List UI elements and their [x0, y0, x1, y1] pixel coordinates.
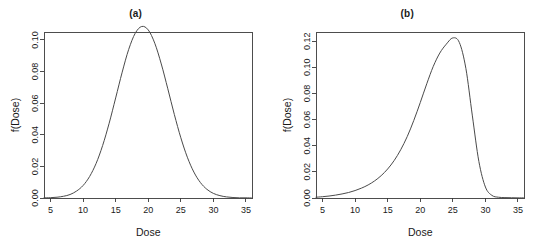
panel-b-xticklabel: 20	[415, 205, 425, 215]
panel-a: (a) 51015202530350.000.020.040.060.080.1…	[0, 0, 272, 246]
panel-a-frame	[44, 32, 253, 198]
panel-b-yticklabel: 0.06	[302, 111, 312, 129]
panel-b-xlabel: Dose	[407, 226, 432, 238]
panel-b-density-curve	[316, 38, 525, 198]
panel-a-xticklabel: 15	[111, 205, 121, 215]
panel-a-xticklabel: 30	[208, 205, 218, 215]
panel-b-yticklabel: 0.00	[302, 189, 312, 207]
panel-a-xlabel: Dose	[136, 226, 161, 238]
panel-b-yticklabel: 0.12	[302, 32, 312, 50]
panel-b-xticklabel: 25	[447, 205, 457, 215]
panel-a-xticklabel: 5	[48, 205, 53, 215]
panel-a-curve-group	[44, 26, 253, 198]
panel-a-yticklabel: 0.08	[30, 63, 40, 81]
panel-b-curve-group	[316, 38, 525, 198]
panel-b-xticklabel: 10	[350, 205, 360, 215]
panel-b-xticklabel: 35	[512, 205, 522, 215]
panel-a-ylabel: f(Dose)	[9, 98, 21, 132]
panel-a-yticklabel: 0.10	[30, 31, 40, 49]
panel-b-yticklabel: 0.10	[302, 59, 312, 77]
panel-b-ylabel: f(Dose)	[280, 98, 292, 132]
panel-b-xticklabel: 30	[480, 205, 490, 215]
panel-b: (b) 51015202530350.000.020.040.060.080.1…	[272, 0, 543, 246]
panel-a-xticklabel: 10	[78, 205, 88, 215]
panel-b-labels: 51015202530350.000.020.040.060.080.100.1…	[280, 32, 522, 238]
panel-a-xticklabel: 35	[241, 205, 251, 215]
panel-a-labels: 51015202530350.000.020.040.060.080.10Dos…	[9, 31, 251, 238]
panel-a-yticklabel: 0.00	[30, 189, 40, 207]
panel-a-xticklabel: 20	[143, 205, 153, 215]
panel-a-axes	[40, 32, 253, 202]
panel-b-yticklabel: 0.08	[302, 85, 312, 103]
panel-a-yticklabel: 0.02	[30, 158, 40, 176]
figure-container: (a) 51015202530350.000.020.040.060.080.1…	[0, 0, 543, 246]
panel-a-plot: 51015202530350.000.020.040.060.080.10Dos…	[0, 0, 272, 246]
panel-a-xticklabel: 25	[176, 205, 186, 215]
panel-a-yticklabel: 0.04	[30, 126, 40, 144]
panel-b-frame	[316, 32, 525, 198]
panel-b-axes	[312, 32, 525, 202]
panel-b-xticklabel: 5	[320, 205, 325, 215]
panel-b-xticklabel: 15	[382, 205, 392, 215]
panel-a-yticklabel: 0.06	[30, 94, 40, 112]
panel-b-plot: 51015202530350.000.020.040.060.080.100.1…	[272, 0, 543, 246]
panel-a-density-curve	[44, 26, 253, 198]
panel-b-yticklabel: 0.02	[302, 163, 312, 181]
panel-b-yticklabel: 0.04	[302, 137, 312, 155]
